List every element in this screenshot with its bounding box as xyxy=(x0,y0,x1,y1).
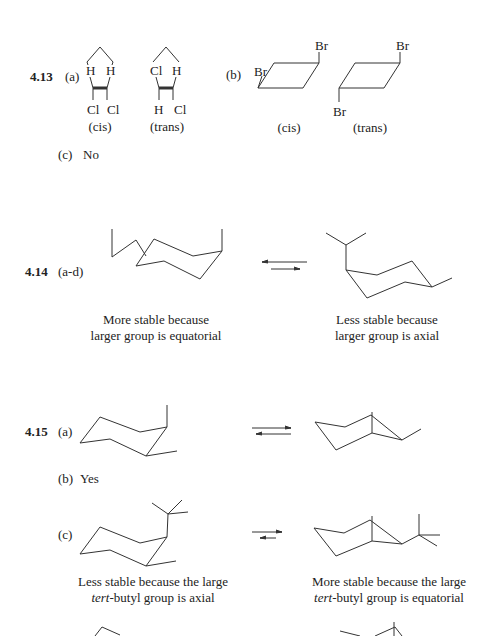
caption-4-14-right-line1: Less stable because xyxy=(336,312,438,327)
cyclobutane-cis xyxy=(258,52,319,88)
cyclohexane-chair-tbutyl-axial xyxy=(80,500,188,566)
caption-4-15-left-line1: Less stable because the large xyxy=(78,574,228,589)
atom-label: H xyxy=(172,63,181,78)
cyclohexane-chair-partial-left xyxy=(95,627,120,636)
caption-4-14-left-line2: larger group is equatorial xyxy=(91,328,222,343)
cyclobutane-trans xyxy=(339,52,400,102)
equilibrium-arrow-4-15a xyxy=(252,426,291,435)
atom-label: Cl xyxy=(150,63,162,78)
atom-label: Cl xyxy=(107,102,119,117)
atom-label: Br xyxy=(396,38,409,53)
cyclohexane-chair-4-15a-right xyxy=(315,412,421,450)
part-label-4-15-a: (a) xyxy=(58,424,72,439)
caption-cis: (cis) xyxy=(277,120,300,135)
atom-label: Cl xyxy=(174,102,186,117)
part-label-4-15-c: (c) xyxy=(58,527,72,542)
equilibrium-arrow-4-14 xyxy=(262,260,307,270)
part-label-4-13-b: (b) xyxy=(226,67,241,82)
atom-label: Cl xyxy=(87,102,99,117)
atom-label: Br xyxy=(254,64,267,79)
part-label-4-14: (a-d) xyxy=(58,264,83,279)
atom-label: H xyxy=(106,63,115,78)
atom-label: H xyxy=(86,63,95,78)
part-label-4-15-b: (b) xyxy=(58,471,73,486)
answer-4-15-b: Yes xyxy=(80,471,99,486)
caption-trans: (trans) xyxy=(353,120,387,135)
part-label-4-13-c: (c) xyxy=(58,147,72,162)
answer-4-13-c: No xyxy=(83,147,99,162)
problem-number-4-14: 4.14 xyxy=(25,264,48,279)
equilibrium-arrow-4-15c xyxy=(252,530,282,539)
caption-rest: -butyl group is axial xyxy=(109,590,214,605)
atom-label: Br xyxy=(315,38,328,53)
caption-rest: -butyl group is equatorial xyxy=(332,590,464,605)
atom-label: H xyxy=(154,102,163,117)
cyclohexane-chair-equatorial xyxy=(112,229,222,279)
caption-4-15-left-line2: tert-butyl group is axial xyxy=(91,590,214,605)
caption-4-14-left-line1: More stable because xyxy=(103,312,209,327)
caption-trans: (trans) xyxy=(150,119,184,134)
problem-number-4-15: 4.15 xyxy=(25,424,48,439)
caption-4-15-right-line2: tert-butyl group is equatorial xyxy=(314,590,464,605)
caption-cis: (cis) xyxy=(88,119,111,134)
caption-4-15-right-line1: More stable because the large xyxy=(312,574,466,589)
cyclohexane-chair-axial xyxy=(326,233,452,298)
cyclohexane-chair-partial-right xyxy=(340,622,402,636)
tert-italic: tert xyxy=(314,590,332,605)
tert-italic: tert xyxy=(91,590,109,605)
cyclohexane-chair-tbutyl-equatorial xyxy=(314,514,440,556)
cyclohexane-chair-4-15a-left xyxy=(80,405,177,456)
atom-label: Br xyxy=(333,104,346,119)
caption-4-14-right-line2: larger group is axial xyxy=(335,328,439,343)
